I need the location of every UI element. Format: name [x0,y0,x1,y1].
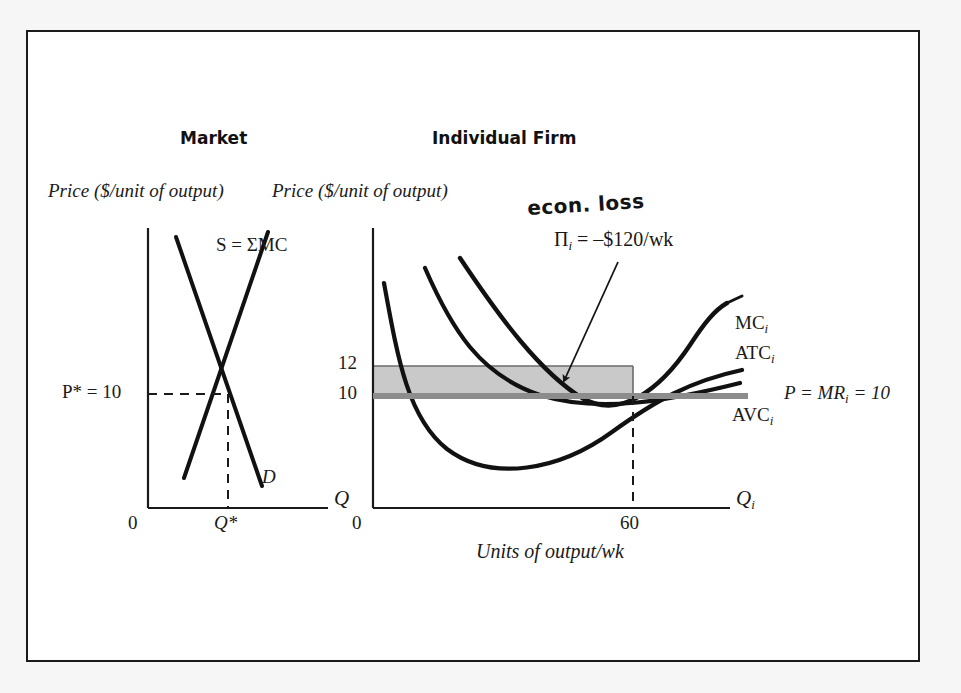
loss-formula-suffix: = –$120/wk [572,228,673,250]
market-price-label: P* = 10 [62,381,121,403]
demand-curve [176,237,262,486]
market-x-axis-name: Q [334,486,349,511]
mc-curve-label: MCi [735,312,768,334]
figure-graphics [0,0,961,693]
atc-curve-label: ATCi [735,342,775,364]
loss-formula-sub: i [568,238,572,253]
avc-curve-label: AVCi [732,404,773,426]
firm-x-axis-name: Qi [736,486,755,511]
figure-page: Market Price ($/unit of output) S = ΣMC … [0,0,961,693]
avc-label-sub: i [770,413,774,428]
firm-x-axis-name-sub: i [751,497,755,512]
supply-curve [184,232,268,478]
market-panel-title: Market [180,128,247,148]
mc-label-sub: i [765,321,769,336]
market-panel-graphics [148,228,328,508]
demand-curve-label: D [262,466,276,488]
firm-y-tick-10: 10 [338,382,357,404]
firm-y-tick-12: 12 [338,352,357,374]
price-mr-label-sub: i [845,391,849,406]
market-quantity-label: Q* [214,512,237,534]
market-y-axis-caption: Price ($/unit of output) [48,180,224,202]
price-mr-label: P = MRi = 10 [784,382,890,404]
market-origin-label: 0 [128,512,138,534]
price-mr-label-prefix: P = MR [784,382,845,403]
econ-loss-arrow [564,262,618,381]
firm-bottom-caption: Units of output/wk [476,540,624,563]
firm-x-axis-name-base: Q [736,486,751,510]
loss-formula-prefix: Π [554,228,568,250]
firm-origin-label: 0 [352,512,362,534]
mc-label-base: MC [735,312,765,333]
economic-loss-rectangle [373,366,633,397]
firm-panel-graphics [373,228,748,508]
supply-curve-label: S = ΣMC [216,234,287,256]
mc-label-leader [727,296,742,303]
atc-label-sub: i [771,351,775,366]
economic-loss-formula: Πi = –$120/wk [554,228,673,251]
avc-label-base: AVC [732,404,770,425]
price-mr-label-suffix: = 10 [849,382,890,403]
atc-label-base: ATC [735,342,771,363]
firm-x-tick-60: 60 [620,512,639,534]
firm-panel-title: Individual Firm [432,128,576,148]
firm-y-axis-caption: Price ($/unit of output) [272,180,448,202]
